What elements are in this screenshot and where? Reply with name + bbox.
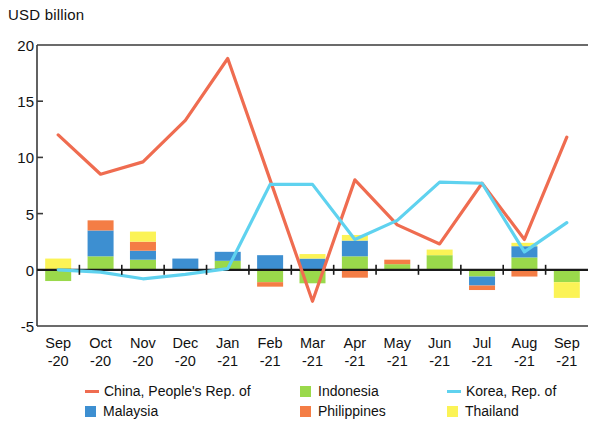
x-tick-label: Apr-21: [344, 334, 367, 370]
x-tick-label: Mar-21: [300, 334, 325, 370]
legend-item[interactable]: Indonesia: [300, 383, 379, 399]
legend-label: Philippines: [318, 403, 386, 419]
bar-segment: [342, 241, 368, 257]
legend-item[interactable]: Philippines: [300, 403, 386, 419]
bar-segment: [257, 270, 283, 282]
x-tick-label: Jan-21: [216, 334, 239, 370]
bar-segment: [342, 256, 368, 269]
legend-label: Thailand: [465, 403, 519, 419]
x-tick-label: Oct-20: [89, 334, 112, 370]
x-tick-month: Feb: [258, 335, 283, 351]
x-tick-label: Jul-21: [472, 334, 493, 370]
legend-label: China, People's Rep. of: [104, 383, 251, 399]
bar-segment: [554, 282, 580, 298]
x-tick-year: -21: [344, 352, 367, 370]
x-tick-year: -21: [258, 352, 283, 370]
x-tick-month: Jun: [428, 335, 451, 351]
bar-segment: [342, 270, 368, 278]
x-tick-year: -21: [300, 352, 325, 370]
x-tick-label: Nov-20: [130, 334, 156, 370]
legend-box-swatch: [300, 406, 311, 417]
chart-container: USD billion 20151050-5 Sep-20Oct-20Nov-2…: [0, 0, 598, 423]
legend-box-swatch: [300, 386, 311, 397]
x-tick-year: -21: [512, 352, 538, 370]
legend-item[interactable]: Korea, Rep. of: [447, 383, 556, 399]
bar-segment: [88, 256, 114, 269]
x-tick-month: Jul: [473, 335, 492, 351]
x-tick-month: Aug: [512, 335, 538, 351]
bar-segment: [300, 254, 326, 258]
x-tick-month: Nov: [130, 335, 156, 351]
x-tick-label: Sep-20: [45, 334, 71, 370]
x-tick-month: Apr: [344, 335, 367, 351]
legend-box-swatch: [447, 406, 458, 417]
x-tick-year: -21: [554, 352, 580, 370]
bar-segment: [554, 270, 580, 282]
bar-segment: [469, 286, 495, 290]
bar-segment: [45, 259, 71, 270]
x-tick-year: -20: [89, 352, 112, 370]
legend-label: Korea, Rep. of: [466, 383, 556, 399]
bar-segment: [469, 277, 495, 286]
bar-segment: [130, 260, 156, 270]
legend-line-swatch: [85, 390, 99, 393]
bar-segment: [88, 230, 114, 256]
bar-segment: [130, 232, 156, 242]
x-tick-year: -20: [172, 352, 198, 370]
legend-line-swatch: [447, 390, 461, 393]
bar-segment: [130, 251, 156, 260]
bar-segment: [511, 257, 537, 269]
x-axis-tick-labels: Sep-20Oct-20Nov-20Dec-20Jan-21Feb-21Mar-…: [0, 330, 598, 380]
bar-segment: [427, 250, 453, 256]
legend-item[interactable]: Malaysia: [85, 403, 158, 419]
bar-segment: [130, 242, 156, 251]
legend-label: Indonesia: [318, 383, 379, 399]
x-tick-month: Mar: [300, 335, 325, 351]
x-tick-month: Sep: [554, 335, 580, 351]
x-tick-label: Sep-21: [554, 334, 580, 370]
legend-label: Malaysia: [103, 403, 158, 419]
legend-item[interactable]: China, People's Rep. of: [85, 383, 251, 399]
x-tick-month: Sep: [45, 335, 71, 351]
bar-segment: [172, 259, 198, 270]
x-tick-label: Dec-20: [172, 334, 198, 370]
x-tick-label: May-21: [384, 334, 411, 370]
bar-segment: [300, 259, 326, 270]
legend-box-swatch: [85, 406, 96, 417]
x-tick-year: -21: [384, 352, 411, 370]
legend-item[interactable]: Thailand: [447, 403, 519, 419]
bar-segment: [384, 260, 410, 264]
x-tick-label: Jun-21: [428, 334, 451, 370]
x-tick-month: Oct: [89, 335, 112, 351]
bar-segment: [88, 220, 114, 230]
x-tick-label: Feb-21: [258, 334, 283, 370]
bar-segment: [257, 282, 283, 286]
stacked-bars: [45, 220, 580, 298]
bar-segment: [427, 255, 453, 270]
x-tick-year: -21: [216, 352, 239, 370]
x-tick-month: Jan: [216, 335, 239, 351]
x-tick-year: -21: [428, 352, 451, 370]
x-tick-month: May: [384, 335, 411, 351]
bar-segment: [257, 255, 283, 270]
x-tick-label: Aug-21: [512, 334, 538, 370]
x-tick-year: -21: [472, 352, 493, 370]
x-tick-year: -20: [45, 352, 71, 370]
x-tick-month: Dec: [172, 335, 198, 351]
x-tick-year: -20: [130, 352, 156, 370]
chart-legend: China, People's Rep. ofIndonesiaKorea, R…: [0, 383, 598, 423]
